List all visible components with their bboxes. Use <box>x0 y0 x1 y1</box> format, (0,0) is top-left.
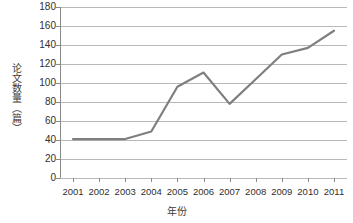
x-axis-title: 年份 <box>0 203 353 218</box>
x-tick-mark <box>282 178 283 182</box>
y-tick-label: 0 <box>28 173 56 183</box>
y-tick-label: 40 <box>28 135 56 145</box>
x-tick-label: 2003 <box>115 186 136 197</box>
x-tick-mark <box>308 178 309 182</box>
y-axis-tick-labels: 020406080100120140160180 <box>28 0 56 223</box>
y-axis-title: 论文数量（篇） <box>2 38 28 158</box>
x-tick-mark <box>256 178 257 182</box>
x-tick-mark <box>73 178 74 182</box>
x-tick-label: 2005 <box>167 186 188 197</box>
y-axis-title-text: 论文数量（篇） <box>9 63 21 133</box>
x-tick-mark <box>99 178 100 182</box>
data-series-line <box>60 7 347 178</box>
x-tick-mark <box>125 178 126 182</box>
y-tick-label: 160 <box>28 21 56 31</box>
y-tick-label: 100 <box>28 78 56 88</box>
line-chart: 论文数量（篇） 020406080100120140160180 2001200… <box>0 0 353 223</box>
x-tick-label: 2001 <box>62 186 83 197</box>
x-tick-label: 2009 <box>271 186 292 197</box>
series-polyline <box>73 31 334 139</box>
y-tick-label: 180 <box>28 2 56 12</box>
plot-area <box>60 7 347 178</box>
y-tick-label: 120 <box>28 59 56 69</box>
x-tick-label: 2006 <box>193 186 214 197</box>
y-tick-label: 140 <box>28 40 56 50</box>
x-tick-label: 2008 <box>245 186 266 197</box>
x-tick-label: 2011 <box>324 186 344 197</box>
x-tick-mark <box>230 178 231 182</box>
x-tick-label: 2004 <box>141 186 162 197</box>
x-tick-label: 2002 <box>89 186 110 197</box>
x-tick-mark <box>151 178 152 182</box>
x-tick-mark <box>204 178 205 182</box>
x-tick-mark <box>177 178 178 182</box>
x-axis-tick-labels: 2001200220032004200520062007200820092010… <box>60 186 347 200</box>
y-tick-label: 80 <box>28 97 56 107</box>
y-tick-label: 60 <box>28 116 56 126</box>
y-tick-label: 20 <box>28 154 56 164</box>
x-tick-mark <box>334 178 335 182</box>
y-tick-mark <box>56 178 60 179</box>
x-tick-label: 2007 <box>219 186 240 197</box>
x-tick-label: 2010 <box>297 186 318 197</box>
